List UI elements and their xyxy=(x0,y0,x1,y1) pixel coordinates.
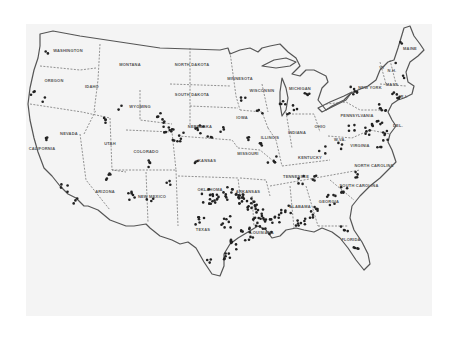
state-label: SOUTH CAROLINA xyxy=(339,183,378,188)
location-marker xyxy=(168,126,171,129)
location-marker xyxy=(219,131,222,134)
location-marker xyxy=(252,236,255,239)
state-label: NORTH DAKOTA xyxy=(175,62,210,67)
location-marker xyxy=(66,191,69,194)
state-label: NEVADA xyxy=(60,131,78,136)
location-marker xyxy=(249,231,252,234)
location-marker xyxy=(246,200,249,203)
location-marker xyxy=(297,182,300,185)
location-marker xyxy=(293,109,296,112)
location-marker xyxy=(208,188,211,191)
location-marker xyxy=(229,256,232,259)
location-marker xyxy=(337,142,340,145)
location-marker xyxy=(284,211,287,214)
location-marker xyxy=(303,220,306,223)
state-label: MINNESOTA xyxy=(227,76,253,81)
location-marker xyxy=(259,142,262,145)
location-marker xyxy=(247,205,250,208)
location-marker xyxy=(250,202,253,205)
location-marker xyxy=(268,233,271,236)
state-label: SOUTH DAKOTA xyxy=(175,92,209,97)
location-marker xyxy=(202,125,205,128)
location-marker xyxy=(304,217,307,220)
state-label: OHIO xyxy=(314,124,325,129)
state-label: ARIZONA xyxy=(95,189,115,194)
location-marker xyxy=(318,150,321,153)
state-label: NEW YORK xyxy=(358,85,382,90)
location-marker xyxy=(41,100,44,103)
location-marker xyxy=(162,125,165,128)
location-marker xyxy=(343,229,346,232)
location-marker xyxy=(254,217,257,220)
location-marker xyxy=(376,120,379,123)
location-marker xyxy=(230,191,233,194)
location-marker xyxy=(282,100,285,103)
location-marker xyxy=(288,112,291,115)
location-marker xyxy=(224,252,227,255)
location-marker xyxy=(211,193,214,196)
location-marker xyxy=(354,90,357,93)
location-marker xyxy=(324,145,327,148)
location-marker xyxy=(44,96,47,99)
state-label: NORTH CAROLINA xyxy=(354,163,393,168)
location-marker xyxy=(262,217,265,220)
location-marker xyxy=(278,221,281,224)
state-label: UTAH xyxy=(104,141,116,146)
location-marker xyxy=(228,252,231,255)
location-marker xyxy=(394,62,397,65)
location-marker xyxy=(216,193,219,196)
location-marker xyxy=(296,219,299,222)
state-label: WYOMING xyxy=(129,104,150,109)
location-marker xyxy=(280,212,283,215)
location-marker xyxy=(171,128,174,131)
location-marker xyxy=(198,216,201,219)
state-label: TENNESSEE xyxy=(283,174,309,179)
location-marker xyxy=(379,146,382,149)
state-label: CALIFORNIA xyxy=(29,146,56,151)
location-marker xyxy=(254,208,257,211)
location-marker xyxy=(313,175,316,178)
location-marker xyxy=(378,103,381,106)
location-marker xyxy=(259,225,262,228)
location-marker xyxy=(132,194,135,197)
location-marker xyxy=(74,199,77,202)
location-marker xyxy=(223,226,226,229)
location-marker xyxy=(382,131,385,134)
location-marker xyxy=(255,211,258,214)
us-outline xyxy=(28,26,424,276)
location-marker xyxy=(312,216,315,219)
location-marker xyxy=(341,143,344,146)
location-marker xyxy=(238,202,241,205)
location-marker xyxy=(353,129,356,132)
location-marker xyxy=(267,161,270,164)
location-marker xyxy=(305,93,308,96)
location-marker xyxy=(169,184,172,187)
state-label: KANSAS xyxy=(198,158,216,163)
location-marker xyxy=(72,202,75,205)
location-marker xyxy=(168,180,171,183)
state-label: VT xyxy=(379,65,385,70)
location-marker xyxy=(280,209,283,212)
location-marker xyxy=(242,193,245,196)
state-label: MICHIGAN xyxy=(289,86,311,91)
location-marker xyxy=(148,161,151,164)
location-marker xyxy=(238,197,241,200)
location-marker xyxy=(199,132,202,135)
location-marker xyxy=(130,191,133,194)
location-marker xyxy=(265,218,268,221)
location-marker xyxy=(223,257,226,260)
location-marker xyxy=(270,231,273,234)
location-marker xyxy=(349,86,352,89)
state-label: PENNSYLVANIA xyxy=(340,113,373,118)
location-marker xyxy=(45,139,48,142)
location-marker xyxy=(161,118,164,121)
location-marker xyxy=(391,93,394,96)
state-label: N.H. xyxy=(388,68,397,73)
location-marker xyxy=(310,210,313,213)
state-label: IOWA xyxy=(236,115,247,120)
state-label: TEXAS xyxy=(196,227,210,232)
location-marker xyxy=(304,223,307,226)
location-marker xyxy=(210,258,213,261)
location-marker xyxy=(231,188,234,191)
location-marker xyxy=(326,196,329,199)
